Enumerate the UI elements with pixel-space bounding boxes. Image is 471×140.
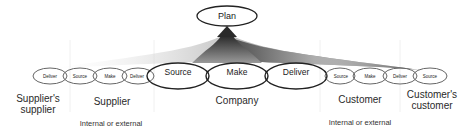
company-group: Source Make Deliver xyxy=(147,63,327,89)
arrow-head-icon xyxy=(217,26,237,37)
suppliers-supplier-group: Deliver xyxy=(33,68,67,84)
supplier-deliver: Deliver xyxy=(130,74,145,79)
customer-source: Source xyxy=(334,74,349,79)
plan-node: Plan xyxy=(197,6,257,26)
company-source: Source xyxy=(165,67,192,77)
supplier-label: Supplier xyxy=(94,96,131,107)
company-label: Company xyxy=(216,95,259,106)
supplier-make: Make xyxy=(104,74,116,79)
supplier-group: Source Make Deliver xyxy=(63,68,154,84)
supply-chain-diagram: Plan Deliver Source Make Deliver Source … xyxy=(0,0,471,140)
suppliers-supplier-deliver: Deliver xyxy=(43,74,58,79)
supplier-source: Source xyxy=(73,74,88,79)
customer-label: Customer xyxy=(338,94,381,105)
plan-label: Plan xyxy=(218,11,236,21)
company-make: Make xyxy=(227,67,248,77)
customer-note: Internal or external xyxy=(329,119,392,127)
customers-customer-source: Source xyxy=(423,74,438,79)
supplier-note: Internal or external xyxy=(80,120,143,128)
customers-customer-label: Customer's customer xyxy=(402,89,462,111)
company-deliver: Deliver xyxy=(283,67,310,77)
customer-group: Source Make Deliver xyxy=(325,68,417,84)
suppliers-supplier-label: Supplier's supplier xyxy=(8,93,68,115)
customers-customer-group: Source xyxy=(413,68,447,84)
customer-make: Make xyxy=(364,74,376,79)
customer-deliver: Deliver xyxy=(393,74,408,79)
